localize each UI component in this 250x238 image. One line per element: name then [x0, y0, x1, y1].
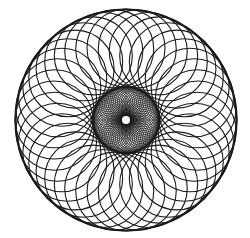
spirograph-svg	[0, 0, 250, 238]
spirograph-figure	[0, 0, 250, 238]
center-hole	[122, 116, 130, 124]
